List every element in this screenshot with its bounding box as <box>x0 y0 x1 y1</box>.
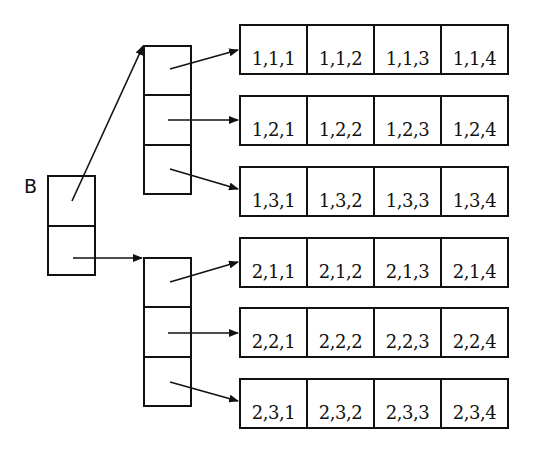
arrow-root-to-mid1 <box>72 46 143 201</box>
arrow-mid2-to-row1 <box>170 262 238 282</box>
pointer-array-diagram: B 1,1,1 1,1,2 1,1,3 1,1,4 1,2,1 1,2,2 1,… <box>0 0 537 463</box>
arrow-mid1-to-row1 <box>170 50 238 69</box>
arrow-mid1-to-row3 <box>170 169 238 189</box>
pointer-arrows <box>0 0 537 463</box>
arrow-mid2-to-row3 <box>170 382 238 401</box>
